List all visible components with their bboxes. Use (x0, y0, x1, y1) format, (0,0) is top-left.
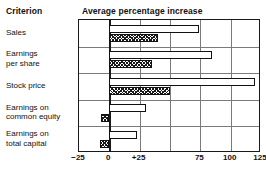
row-separator (79, 100, 259, 101)
tick-label-25: +25 (132, 153, 146, 162)
category-label-1: Earnings per share (6, 49, 80, 68)
criterion-column-header: Criterion (6, 6, 42, 16)
category-label-2: Stock price (6, 81, 80, 91)
category-axis: SalesEarnings per shareStock priceEarnin… (0, 19, 78, 152)
bar-open-4 (109, 131, 137, 139)
value-axis: −250+2575100125 (78, 153, 260, 171)
plot-area (78, 19, 260, 152)
bar-open-2 (109, 78, 255, 86)
bar-open-3 (109, 104, 145, 112)
bar-hatched-4 (100, 140, 110, 148)
bar-open-1 (109, 51, 212, 59)
chart-title: Average percentage increase (82, 6, 203, 16)
category-label-0: Sales (6, 28, 80, 38)
bar-hatched-3 (101, 114, 109, 122)
row-separator (79, 47, 259, 48)
tick-label-100: 100 (223, 153, 236, 162)
tick-label-75: 75 (195, 153, 204, 162)
row-separator (79, 126, 259, 127)
bar-open-0 (109, 25, 199, 33)
tick-label-0: 0 (106, 153, 110, 162)
bar-hatched-2 (109, 87, 170, 95)
bar-hatched-0 (109, 34, 158, 42)
bar-chart-figure: Criterion Average percentage increase Sa… (0, 0, 266, 177)
plot-inner (79, 20, 259, 151)
tick-label--25: −25 (71, 153, 85, 162)
row-separator (79, 73, 259, 74)
bar-hatched-1 (109, 60, 151, 68)
category-label-4: Earnings on total capital (6, 129, 80, 148)
tick-label-125: 125 (253, 153, 266, 162)
category-label-3: Earnings on common equity (6, 103, 80, 122)
